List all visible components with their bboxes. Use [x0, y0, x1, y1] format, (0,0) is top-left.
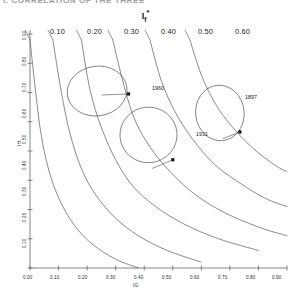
contour-leader-0.20 — [48, 30, 53, 40]
contour-curve-0.20 — [53, 40, 201, 262]
contour-curve-0.30 — [81, 40, 258, 251]
contour-lines-group — [25, 30, 287, 268]
contour-leader-0.40 — [108, 30, 113, 40]
marker-leader-1931 — [152, 160, 173, 169]
axes-group — [28, 30, 288, 271]
region-ellipses-group — [64, 62, 247, 165]
contour-leader-0.60 — [185, 30, 190, 40]
region-ellipse-1931 — [118, 105, 180, 165]
contour-curve-0.40 — [113, 40, 287, 236]
data-markers-group — [102, 92, 242, 168]
plot-canvas — [0, 0, 291, 298]
contour-leader-0.50 — [145, 30, 150, 40]
contour-curve-0.50 — [150, 40, 287, 207]
marker-leader-1960 — [102, 94, 129, 95]
contour-leader-0.30 — [76, 30, 81, 40]
contour-curve-0.60 — [190, 40, 287, 172]
contour-curve-0.10 — [30, 40, 139, 268]
contour-leader-0.10 — [25, 30, 30, 40]
figure-contour-plot: I. CORRELATION OF THE THREE If* 0.10 0.2… — [0, 0, 291, 298]
data-marker-1897 — [238, 130, 241, 133]
